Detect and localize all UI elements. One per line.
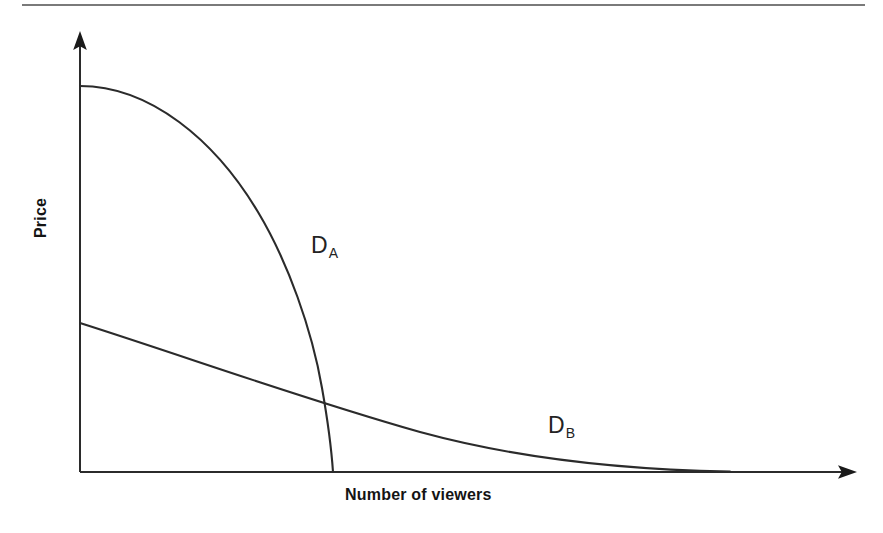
curve-label-db-base: D (548, 412, 565, 438)
demand-curve-a (80, 86, 333, 472)
curve-label-da-subscript: A (329, 245, 338, 261)
y-axis-title: Price (33, 176, 49, 238)
figure-root: Price Number of viewers DA DB (0, 0, 883, 533)
curve-label-db-subscript: B (566, 425, 575, 441)
curve-label-da-base: D (311, 232, 328, 258)
demand-curve-b (80, 323, 730, 472)
curve-label-db: DB (548, 414, 574, 437)
x-axis-title: Number of viewers (345, 486, 492, 504)
curve-label-da: DA (311, 234, 337, 257)
demand-curves-chart (0, 0, 883, 533)
